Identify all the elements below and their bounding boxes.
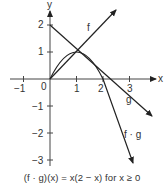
x-tick-label: −1 xyxy=(14,83,26,94)
series-f-label: f xyxy=(87,22,90,33)
series-g-line xyxy=(50,25,152,116)
y-tick-label: −3 xyxy=(32,155,44,166)
y-tick-label: 1 xyxy=(38,46,44,57)
y-tick-label: −1 xyxy=(32,101,44,112)
series-fg-label: f · g xyxy=(124,129,141,140)
x-tick-label: 1 xyxy=(74,83,80,94)
x-tick-label: 2 xyxy=(98,83,104,94)
origin-label: 0 xyxy=(41,81,47,92)
series-fg-curve xyxy=(50,52,133,163)
y-axis-label: y xyxy=(47,0,52,10)
y-tick-label: −2 xyxy=(32,128,44,139)
graph-caption: (f · g)(x) = x(2 − x) for x ≥ 0 xyxy=(0,172,164,183)
function-product-graph: −1 0 1 2 3 x 2 1 −1 −2 −3 y f g f · g xyxy=(0,0,164,187)
series-f-line xyxy=(50,10,116,79)
x-tick-label: 3 xyxy=(127,83,133,94)
y-tick-label: 2 xyxy=(38,19,44,30)
x-axis-label: x xyxy=(158,73,163,84)
series-g-label: g xyxy=(126,94,132,105)
